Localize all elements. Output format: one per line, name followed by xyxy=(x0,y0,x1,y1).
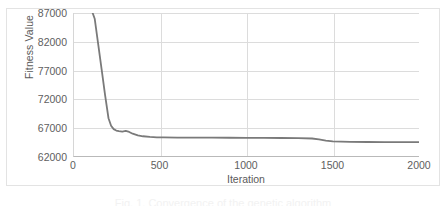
y-tick-label-82000: 82000 xyxy=(21,36,67,48)
x-tick-label-1000: 1000 xyxy=(234,159,257,171)
x-tick-label-1500: 1500 xyxy=(321,159,344,171)
x-tick-label-500: 500 xyxy=(151,159,169,171)
plot-inner xyxy=(74,13,419,156)
y-axis-tick-labels: 620006700072000770008200087000 xyxy=(15,13,67,157)
y-tick-label-62000: 62000 xyxy=(21,151,67,163)
plot-area xyxy=(73,13,419,157)
y-tick-label-87000: 87000 xyxy=(21,7,67,19)
figure-caption: Fig. 1. Convergence of the genetic algor… xyxy=(6,192,440,206)
chart-frame: Fitness Value 62000670007200077000820008… xyxy=(6,8,440,186)
y-tick-label-67000: 67000 xyxy=(21,122,67,134)
x-axis-title: Iteration xyxy=(73,173,419,185)
chart-screenshot: Fitness Value 62000670007200077000820008… xyxy=(0,0,448,206)
x-tick-label-2000: 2000 xyxy=(407,159,430,171)
series-line-fitness-value xyxy=(74,13,419,156)
y-tick-label-72000: 72000 xyxy=(21,93,67,105)
x-tick-label-0: 0 xyxy=(70,159,76,171)
y-tick-label-77000: 77000 xyxy=(21,65,67,77)
